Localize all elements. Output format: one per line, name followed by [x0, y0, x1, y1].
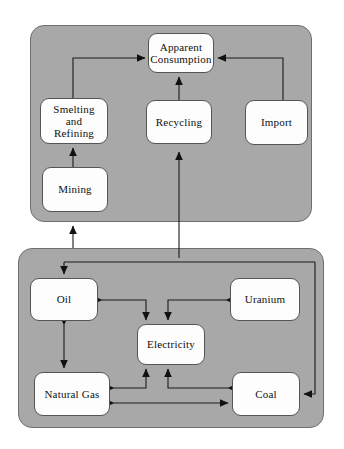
node-recycling[interactable]: Recycling: [146, 100, 212, 144]
edge-electricity-to-uranium: [168, 300, 226, 320]
node-label: Apparent Consumption: [148, 41, 214, 65]
node-label: Electricity: [145, 338, 197, 351]
node-label: Uranium: [243, 293, 288, 306]
edge-bus-to-coal: [304, 262, 315, 394]
node-natural-gas[interactable]: Natural Gas: [34, 372, 110, 416]
node-oil[interactable]: Oil: [30, 278, 98, 321]
edge-import-to-apparent-consumption: [218, 58, 283, 100]
node-mining[interactable]: Mining: [42, 167, 108, 212]
node-electricity[interactable]: Electricity: [137, 324, 205, 365]
node-label: Smelting and Refining: [51, 103, 96, 139]
node-smelting-and-refining[interactable]: Smelting and Refining: [40, 98, 108, 144]
node-label: Import: [259, 116, 294, 129]
node-import[interactable]: Import: [245, 100, 308, 145]
node-uranium[interactable]: Uranium: [230, 278, 300, 321]
node-label: Natural Gas: [42, 388, 101, 401]
node-coal[interactable]: Coal: [232, 372, 300, 416]
edge-smelting-to-apparent-consumption: [73, 58, 145, 98]
node-apparent-consumption[interactable]: Apparent Consumption: [148, 33, 214, 73]
edge-electricity-to-oil: [102, 300, 146, 320]
edge-electricity-to-coal: [168, 369, 228, 388]
node-label: Coal: [253, 388, 279, 401]
node-label: Oil: [55, 293, 74, 306]
diagram-canvas: Apparent Consumption Smelting and Refini…: [0, 0, 344, 449]
node-label: Mining: [56, 183, 94, 196]
edge-electricity-to-natural-gas: [114, 369, 146, 388]
node-label: Recycling: [154, 116, 204, 129]
